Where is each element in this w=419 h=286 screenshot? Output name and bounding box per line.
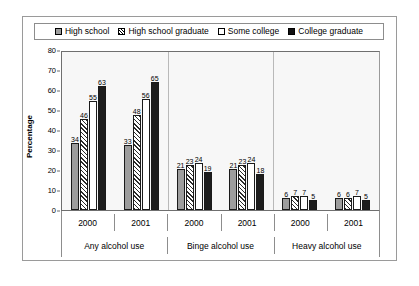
x-axis-year-label: 2001 xyxy=(327,211,380,234)
y-tick-label: 0 xyxy=(52,207,56,215)
x-axis-group-label: Any alcohol use xyxy=(61,234,167,257)
chart-figure: High school High school graduate Some co… xyxy=(22,16,397,261)
x-axis-year-label: 2001 xyxy=(221,211,274,234)
y-tick-mark xyxy=(57,91,60,92)
bar: 33 xyxy=(124,145,132,210)
bar: 7 xyxy=(291,196,299,210)
bar-value-label: 6 xyxy=(284,191,288,199)
bar-value-label: 63 xyxy=(98,79,106,87)
bar: 24 xyxy=(195,163,203,210)
bar: 56 xyxy=(142,99,150,210)
bar-group: 21232419 xyxy=(168,52,221,210)
legend-label-high-school-graduate: High school graduate xyxy=(128,27,208,36)
bar-groups: 3446556333485665212324192123241867756675 xyxy=(62,52,379,210)
y-tick-label: 20 xyxy=(48,167,56,175)
legend-label-high-school: High school xyxy=(65,27,109,36)
legend-swatch-icon-high-school-graduate xyxy=(118,28,125,35)
y-tick-mark xyxy=(57,151,60,152)
bar-value-label: 65 xyxy=(151,75,159,83)
y-tick-label: 60 xyxy=(48,87,56,95)
bar-value-label: 55 xyxy=(89,94,97,102)
bar-value-label: 7 xyxy=(355,189,359,197)
bar: 46 xyxy=(80,119,88,210)
x-axis-year-label: 2000 xyxy=(61,211,114,234)
bar: 6 xyxy=(344,198,352,210)
y-tick-mark xyxy=(57,111,60,112)
bar: 21 xyxy=(177,169,185,210)
bar-value-label: 34 xyxy=(71,136,79,144)
bar-value-label: 7 xyxy=(302,189,306,197)
bar: 65 xyxy=(151,82,159,210)
y-tick-label: 80 xyxy=(48,47,56,55)
bar: 63 xyxy=(98,86,106,210)
x-axis-group-label: Heavy alcohol use xyxy=(274,234,380,257)
x-axis: 200020012000200120002001 Any alcohol use… xyxy=(61,211,380,257)
x-axis-year-row: 200020012000200120002001 xyxy=(61,211,380,234)
x-axis-year-label: 2000 xyxy=(167,211,220,234)
bar: 7 xyxy=(300,196,308,210)
bar-group: 6675 xyxy=(326,52,379,210)
bar: 34 xyxy=(71,143,79,210)
y-tick-mark xyxy=(57,51,60,52)
bar-value-label: 21 xyxy=(177,162,185,170)
legend-item-some-college: Some college xyxy=(218,27,280,36)
legend-label-college-graduate: College graduate xyxy=(298,27,363,36)
plot-area: 3446556333485665212324192123241867756675 xyxy=(61,51,380,211)
legend-item-high-school: High school xyxy=(55,27,109,36)
legend-swatch-icon-some-college xyxy=(218,28,225,35)
legend-item-college-graduate: College graduate xyxy=(288,27,363,36)
bar-group: 34465563 xyxy=(62,52,115,210)
y-tick-mark xyxy=(57,211,60,212)
bar-value-label: 19 xyxy=(204,165,212,173)
bar-value-label: 21 xyxy=(229,162,237,170)
y-axis-title-text: Percentage xyxy=(26,114,35,157)
bar: 6 xyxy=(335,198,343,210)
bar-value-label: 18 xyxy=(256,167,264,175)
bar: 48 xyxy=(133,115,141,210)
bar-value-label: 56 xyxy=(142,92,150,100)
bar-value-label: 24 xyxy=(247,156,255,164)
bar-value-label: 23 xyxy=(186,158,194,166)
legend-swatch-icon-high-school xyxy=(55,28,62,35)
bar: 23 xyxy=(238,165,246,210)
y-tick-label: 50 xyxy=(48,107,56,115)
bar: 19 xyxy=(204,172,212,210)
bar-value-label: 48 xyxy=(133,108,141,116)
chart-legend: High school High school graduate Some co… xyxy=(34,23,384,40)
bar-value-label: 23 xyxy=(238,158,246,166)
y-tick-label: 30 xyxy=(48,147,56,155)
bar: 6 xyxy=(282,198,290,210)
bar: 7 xyxy=(353,196,361,210)
legend-item-high-school-graduate: High school graduate xyxy=(118,27,208,36)
bar-value-label: 5 xyxy=(364,193,368,201)
y-axis-ticks: 01020304050607080 xyxy=(40,51,60,211)
bar-value-label: 7 xyxy=(293,189,297,197)
bar-value-label: 6 xyxy=(337,191,341,199)
bar-value-label: 5 xyxy=(311,193,315,201)
bar: 24 xyxy=(247,163,255,210)
y-tick-mark xyxy=(57,131,60,132)
legend-swatch-icon-college-graduate xyxy=(288,28,295,35)
bar: 21 xyxy=(229,169,237,210)
bar-group: 33485665 xyxy=(115,52,168,210)
bar: 55 xyxy=(89,101,97,210)
y-tick-label: 70 xyxy=(48,67,56,75)
plot-area-wrapper: 01020304050607080 3446556333485665212324… xyxy=(40,51,380,211)
y-tick-mark xyxy=(57,71,60,72)
bar: 23 xyxy=(186,165,194,210)
bar: 5 xyxy=(362,200,370,210)
x-axis-year-label: 2000 xyxy=(274,211,327,234)
bar: 18 xyxy=(256,174,264,210)
y-tick-label: 40 xyxy=(48,127,56,135)
bar-value-label: 24 xyxy=(195,156,203,164)
y-tick-mark xyxy=(57,191,60,192)
y-axis-title: Percentage xyxy=(24,91,36,181)
y-tick-mark xyxy=(57,171,60,172)
legend-label-some-college: Some college xyxy=(228,27,280,36)
bar-group: 6775 xyxy=(273,52,326,210)
bar-value-label: 46 xyxy=(80,112,88,120)
bar-value-label: 33 xyxy=(124,138,132,146)
y-tick-label: 10 xyxy=(48,187,56,195)
x-axis-group-row: Any alcohol useBinge alcohol useHeavy al… xyxy=(61,234,380,257)
x-axis-year-label: 2001 xyxy=(114,211,167,234)
